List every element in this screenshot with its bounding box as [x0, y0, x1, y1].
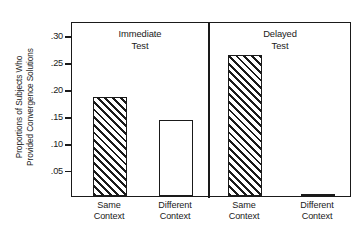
y-axis-title-line-1: Proportions of Subjects Who — [14, 56, 25, 158]
y-tick-mark-2: .15 — [65, 117, 72, 118]
x-label-2-line-1: Same — [204, 200, 284, 211]
bar-chart-figure: Proportions of Subjects Who Provided Con… — [0, 0, 362, 245]
plot-area: .05.10.15.20.25.30 Immediate Test Delaye… — [71, 22, 351, 197]
bar-delayed-test-different-context — [301, 194, 335, 196]
panel-title-immediate-line-1: Immediate — [119, 28, 162, 39]
y-axis-title-line-2: Provided Convergence Solutions — [25, 48, 36, 166]
y-tick-label-2: .15 — [51, 113, 63, 122]
y-tick-mark-4: .25 — [65, 63, 72, 64]
x-label-3: DifferentContext — [277, 200, 357, 223]
y-tick-label-3: .20 — [51, 86, 63, 95]
x-label-2-line-2: Context — [204, 211, 284, 222]
x-label-1-line-2: Context — [135, 211, 215, 222]
x-label-3-line-2: Context — [277, 211, 357, 222]
y-tick-label-1: .10 — [51, 140, 63, 149]
panel-title-delayed-test: Delayed Test — [208, 28, 352, 51]
y-tick-mark-3: .20 — [65, 90, 72, 91]
y-axis-title: Proportions of Subjects Who Provided Con… — [14, 18, 44, 196]
y-tick-label-4: .25 — [51, 59, 63, 68]
panel-title-delayed-line-1: Delayed — [263, 28, 297, 39]
x-label-1-line-1: Different — [135, 200, 215, 211]
x-label-3-line-1: Different — [277, 200, 357, 211]
panel-title-immediate-test: Immediate Test — [72, 28, 208, 51]
x-label-2: SameContext — [204, 200, 284, 223]
y-tick-label-5: .30 — [51, 33, 63, 42]
y-tick-label-0: .05 — [51, 167, 63, 176]
x-label-1: DifferentContext — [135, 200, 215, 223]
y-tick-mark-0: .05 — [65, 171, 72, 172]
y-tick-mark-5: .30 — [65, 36, 72, 37]
y-tick-mark-1: .10 — [65, 144, 72, 145]
bar-delayed-test-same-context — [228, 55, 262, 196]
bar-immediate-test-same-context — [93, 97, 127, 196]
panel-title-delayed-line-2: Test — [272, 40, 289, 51]
panel-title-immediate-line-2: Test — [132, 40, 149, 51]
bar-immediate-test-different-context — [159, 120, 193, 196]
